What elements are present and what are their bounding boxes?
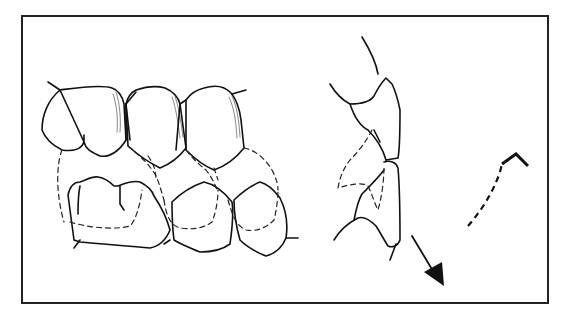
- figure-frame: [22, 16, 548, 303]
- dental-occlusion-diagram: [0, 0, 566, 316]
- movement-path: [468, 154, 528, 226]
- movement-arrow: [412, 236, 444, 286]
- upper-premolar-2: [186, 86, 246, 170]
- upper-premolar-1: [126, 87, 186, 168]
- lower-molar: [68, 177, 170, 248]
- arrow-head-icon: [424, 262, 444, 286]
- upper-molar: [42, 82, 126, 156]
- incisor-profile: [330, 37, 400, 260]
- buccal-view: [42, 82, 298, 256]
- lower-premolar-1: [164, 182, 233, 252]
- lower-premolar-2: [228, 182, 298, 256]
